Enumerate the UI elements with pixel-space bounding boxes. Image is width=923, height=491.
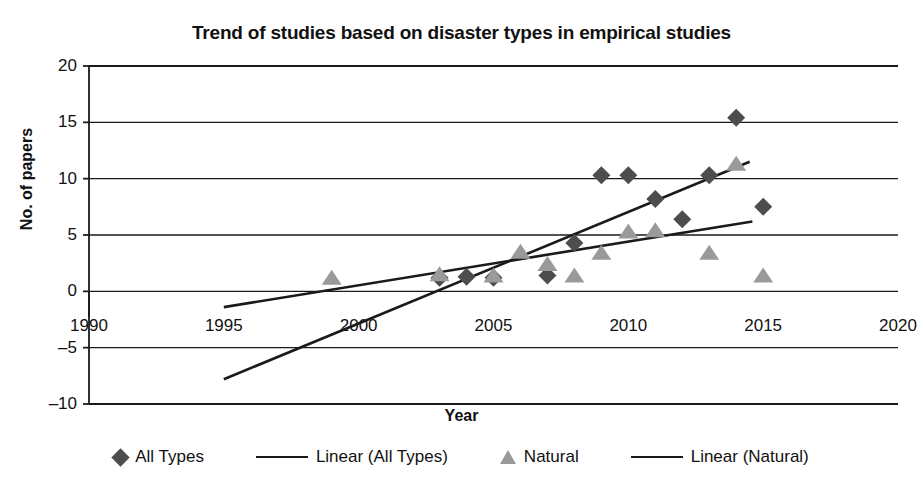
gridline-group (89, 122, 898, 347)
legend-item[interactable]: Linear (Natural) (631, 447, 809, 467)
data-point-all-types (673, 210, 691, 228)
legend-item[interactable]: Natural (500, 447, 579, 467)
data-point-natural (510, 244, 530, 259)
line-swatch-icon (631, 456, 683, 458)
marker-group (322, 109, 773, 287)
data-point-all-types (754, 198, 772, 216)
data-point-all-types (727, 109, 745, 127)
data-point-natural (322, 270, 342, 285)
legend-item[interactable]: All Types (114, 447, 204, 467)
data-point-natural (618, 223, 638, 238)
data-point-natural (645, 222, 665, 237)
chart-legend: All TypesLinear (All Types)NaturalLinear… (0, 447, 923, 467)
diamond-marker-icon (112, 448, 130, 466)
chart-figure: Trend of studies based on disaster types… (0, 0, 923, 491)
triangle-marker-icon (500, 450, 516, 464)
legend-item-label: All Types (135, 447, 204, 467)
data-point-natural (564, 267, 584, 282)
legend-item-label: Linear (Natural) (691, 447, 809, 467)
trendline-group (224, 162, 753, 379)
data-point-natural (753, 267, 773, 282)
data-point-all-types (592, 166, 610, 184)
data-point-all-types (458, 268, 476, 286)
data-point-natural (699, 245, 719, 260)
line-swatch-icon (256, 456, 308, 458)
data-point-all-types (646, 190, 664, 208)
data-point-natural (537, 256, 557, 271)
legend-item-label: Linear (All Types) (316, 447, 448, 467)
plot-area (0, 0, 923, 491)
data-point-all-types (619, 166, 637, 184)
legend-item[interactable]: Linear (All Types) (256, 447, 448, 467)
trendline-all-types (224, 162, 750, 379)
legend-item-label: Natural (524, 447, 579, 467)
